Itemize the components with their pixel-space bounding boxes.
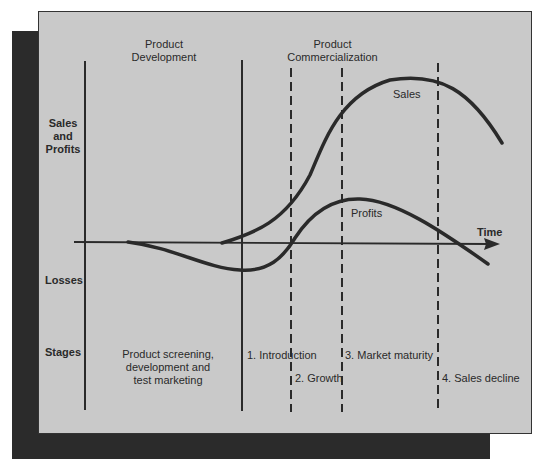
- stage-decline-label: 4. Sales decline: [442, 372, 520, 385]
- stage-growth-label: 2. Growth: [295, 372, 343, 385]
- y-axis-label-losses: Losses: [45, 274, 83, 287]
- stage-introduction-label: 1. Introduction: [247, 349, 317, 362]
- time-axis-arrow-icon: [484, 238, 500, 250]
- profits-curve: [128, 199, 488, 270]
- phase-label-product-commercialization: Product Commercialization: [275, 38, 390, 64]
- stage-maturity-label: 3. Market maturity: [345, 349, 433, 362]
- sales-curve-label: Sales: [393, 88, 421, 101]
- stage-development-label: Product screening, development and test …: [113, 348, 223, 387]
- y-axis-label-sales-and-profits: Sales and Profits: [44, 117, 82, 156]
- stages-label: Stages: [45, 346, 81, 359]
- product-life-cycle-diagram: [0, 0, 536, 467]
- phase-label-product-development: Product Development: [118, 38, 210, 64]
- time-axis-label: Time: [477, 226, 502, 239]
- profits-curve-label: Profits: [351, 207, 382, 220]
